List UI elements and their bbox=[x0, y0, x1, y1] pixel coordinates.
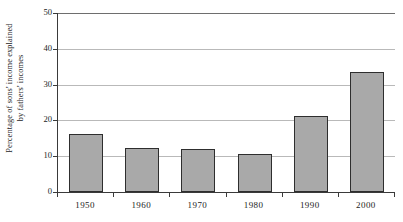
x-axis: 195019601970198019902000 bbox=[57, 193, 394, 222]
bar bbox=[181, 149, 215, 192]
bar bbox=[69, 134, 103, 192]
y-tick-label: 40 bbox=[28, 44, 52, 53]
y-tick-label: 0 bbox=[28, 187, 52, 196]
x-tick-label: 1980 bbox=[224, 200, 284, 210]
x-tick-label: 1970 bbox=[167, 200, 227, 210]
y-axis-title-line-2: by fathers' incomes bbox=[15, 0, 26, 183]
x-tick-mark bbox=[226, 193, 227, 197]
y-axis-title-line-1: Percentage of sons' income explained bbox=[4, 0, 15, 183]
bar bbox=[238, 154, 272, 192]
bar bbox=[125, 148, 159, 192]
x-tick-mark bbox=[113, 193, 114, 197]
bar bbox=[294, 116, 328, 192]
x-tick-mark bbox=[338, 193, 339, 197]
x-tick-label: 2000 bbox=[336, 200, 396, 210]
x-tick-label: 1990 bbox=[280, 200, 340, 210]
x-tick-mark bbox=[57, 193, 58, 197]
x-tick-label: 1950 bbox=[55, 200, 115, 210]
bar-chart: Percentage of sons' income explained by … bbox=[0, 0, 403, 222]
x-tick-mark bbox=[282, 193, 283, 197]
x-tick-mark bbox=[394, 193, 395, 197]
x-tick-mark bbox=[169, 193, 170, 197]
y-tick-label: 50 bbox=[28, 8, 52, 17]
y-tick-label: 20 bbox=[28, 115, 52, 124]
plot-area: 01020304050 bbox=[57, 13, 395, 193]
y-tick-label: 30 bbox=[28, 80, 52, 89]
bars-layer bbox=[58, 13, 395, 192]
x-tick-label: 1960 bbox=[111, 200, 171, 210]
bar bbox=[350, 72, 384, 192]
y-tick-label: 10 bbox=[28, 151, 52, 160]
